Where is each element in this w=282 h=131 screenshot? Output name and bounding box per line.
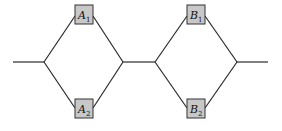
wire-a-split-to-a2: [44, 62, 75, 108]
component-a2: A2: [75, 99, 93, 118]
wire-a-split-to-a1: [44, 16, 75, 62]
wire-b-split-to-b1: [155, 16, 187, 62]
wire-a2-to-a-join: [93, 62, 123, 108]
wire-a1-to-a-join: [93, 16, 123, 62]
parallel-block-a: A1 A2: [44, 5, 123, 118]
component-b2: B2: [187, 99, 205, 118]
wire-b1-to-b-join: [205, 16, 237, 62]
component-b1: B1: [187, 5, 205, 24]
series-parallel-diagram: A1 A2 B1 B2: [0, 0, 282, 131]
wire-b2-to-b-join: [205, 62, 237, 108]
component-a1: A1: [75, 5, 93, 24]
wire-b-split-to-b2: [155, 62, 187, 108]
parallel-block-b: B1 B2: [155, 5, 237, 118]
